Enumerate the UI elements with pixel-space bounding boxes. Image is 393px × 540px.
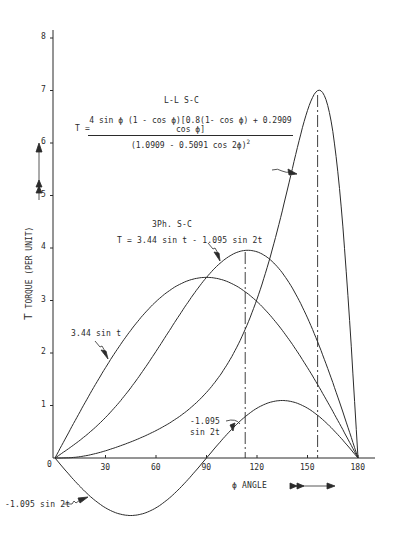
x-tick-label: 180 [351,463,365,472]
ll-den-exp: 2 [246,138,250,145]
x-tick-label: 30 [101,463,111,472]
sin2t-lower-arrowhead-icon [78,497,88,503]
ll-formula-denominator: (1.0909 - 0.5091 cos 2ϕ)2 [88,136,293,150]
y-tick-label: 2 [41,347,46,356]
sin2t-lower-label: -1.095 sin 2t [5,500,70,509]
ll-den-text: (1.0909 - 0.5091 cos 2ϕ) [131,141,247,150]
y-tick-label: 3 [41,295,46,304]
x-tick-label: 60 [151,463,161,472]
ph3-formula: T = 3.44 sin t - 1.095 sin 2t [117,236,262,245]
sin-t-label: 3.44 sin t [71,329,121,338]
y-axis-label: T TORQUE (PER UNIT) [22,227,34,320]
curves [55,90,358,515]
origin-label: 0 [47,460,52,469]
x-tick-label: 90 [202,463,212,472]
sin2t-upper-label-2: sin 2t [190,428,220,437]
ll-formula: 4 sin ϕ (1 - cos ϕ)[0.8(1- cos ϕ) + 0.29… [88,116,293,150]
y-tick-label: 6 [41,137,46,146]
y-tick-label: 4 [41,242,46,251]
ph3-sc-curve [55,250,358,458]
torque-chart [0,0,393,540]
y-axis-label-T: T [22,313,34,320]
ll-formula-numerator: 4 sin ϕ (1 - cos ϕ)[0.8(1- cos ϕ) + 0.29… [88,116,293,136]
y-tick-label: 7 [41,85,46,94]
xlabel-arrowhead-icon-2 [290,483,297,489]
xlabel-arrowhead-icon [327,483,335,489]
y-tick-label: 1 [41,400,46,409]
x-axis-label: ϕ ANGLE [232,481,267,490]
sin-t-arrowhead-icon [101,350,108,359]
ll-title: L-L S-C [164,96,199,105]
y-axis-label-text: TORQUE (PER UNIT) [25,227,34,309]
y-tick-label: 8 [41,32,46,41]
x-tick-label: 150 [300,463,314,472]
ph3-arrowhead-icon [214,252,220,261]
xlabel-arrowhead-icon-3 [297,483,304,489]
sin2t-upper-label-1: -1.095 [190,417,220,426]
ph3-title: 3Ph. S-C [152,220,192,229]
x-tick-label: 120 [250,463,264,472]
annotation-arrows [36,143,335,504]
y-tick-label: 5 [41,190,46,199]
